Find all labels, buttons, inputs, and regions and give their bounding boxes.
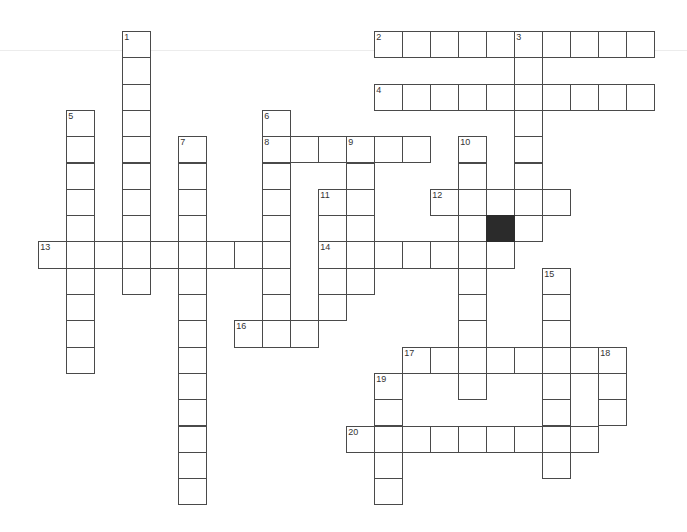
crossword-cell[interactable] (374, 241, 403, 268)
crossword-cell[interactable] (402, 426, 431, 453)
crossword-cell[interactable] (346, 241, 375, 268)
crossword-cell[interactable] (346, 268, 375, 295)
crossword-cell[interactable]: 14 (318, 241, 347, 268)
crossword-cell[interactable] (262, 163, 291, 190)
crossword-cell[interactable]: 15 (542, 268, 571, 295)
crossword-cell[interactable] (458, 426, 487, 453)
crossword-cell[interactable] (262, 294, 291, 321)
crossword-cell[interactable] (122, 241, 151, 268)
crossword-cell[interactable] (346, 189, 375, 216)
crossword-cell[interactable] (430, 84, 459, 111)
crossword-cell[interactable] (66, 294, 95, 321)
crossword-cell[interactable] (458, 84, 487, 111)
crossword-cell[interactable] (178, 215, 207, 242)
crossword-cell[interactable] (458, 31, 487, 58)
crossword-cell[interactable] (430, 426, 459, 453)
crossword-cell[interactable]: 18 (598, 347, 627, 374)
crossword-cell[interactable] (178, 478, 207, 505)
crossword-cell[interactable] (542, 31, 571, 58)
crossword-cell[interactable] (66, 136, 95, 163)
crossword-cell[interactable] (66, 241, 95, 268)
crossword-cell[interactable] (430, 31, 459, 58)
crossword-cell[interactable] (514, 57, 543, 84)
crossword-cell[interactable] (542, 189, 571, 216)
crossword-cell[interactable] (178, 399, 207, 426)
crossword-cell[interactable] (542, 84, 571, 111)
crossword-cell[interactable] (66, 163, 95, 190)
crossword-cell[interactable] (66, 215, 95, 242)
crossword-cell[interactable] (122, 189, 151, 216)
crossword-cell[interactable]: 9 (346, 136, 375, 163)
crossword-cell[interactable] (402, 136, 431, 163)
crossword-cell[interactable] (514, 136, 543, 163)
crossword-cell[interactable]: 11 (318, 189, 347, 216)
crossword-cell[interactable] (402, 31, 431, 58)
crossword-cell[interactable] (318, 136, 347, 163)
crossword-cell[interactable]: 6 (262, 110, 291, 137)
crossword-cell[interactable] (458, 373, 487, 400)
crossword-cell[interactable] (178, 241, 207, 268)
crossword-cell[interactable] (374, 426, 403, 453)
crossword-cell[interactable] (598, 31, 627, 58)
crossword-cell[interactable] (514, 426, 543, 453)
crossword-cell[interactable]: 16 (234, 320, 263, 347)
crossword-cell[interactable] (290, 320, 319, 347)
crossword-cell[interactable] (598, 84, 627, 111)
crossword-cell[interactable] (570, 31, 599, 58)
crossword-cell[interactable] (178, 268, 207, 295)
crossword-cell[interactable] (514, 189, 543, 216)
crossword-cell[interactable] (374, 478, 403, 505)
crossword-cell[interactable] (542, 373, 571, 400)
crossword-cell[interactable] (514, 347, 543, 374)
crossword-cell[interactable] (458, 294, 487, 321)
crossword-cell[interactable] (178, 163, 207, 190)
crossword-cell[interactable] (262, 241, 291, 268)
crossword-cell[interactable] (458, 347, 487, 374)
crossword-cell[interactable]: 20 (346, 426, 375, 453)
crossword-cell[interactable]: 3 (514, 31, 543, 58)
crossword-cell[interactable] (542, 320, 571, 347)
crossword-cell[interactable] (122, 84, 151, 111)
crossword-cell[interactable]: 12 (430, 189, 459, 216)
crossword-cell[interactable] (318, 268, 347, 295)
crossword-cell[interactable] (122, 268, 151, 295)
crossword-cell[interactable] (150, 241, 179, 268)
crossword-cell[interactable] (458, 320, 487, 347)
crossword-cell[interactable] (570, 347, 599, 374)
crossword-cell[interactable] (122, 57, 151, 84)
crossword-cell[interactable]: 7 (178, 136, 207, 163)
crossword-cell[interactable] (570, 426, 599, 453)
crossword-cell[interactable] (346, 215, 375, 242)
crossword-cell[interactable] (486, 241, 515, 268)
crossword-cell[interactable] (570, 84, 599, 111)
crossword-cell[interactable] (178, 452, 207, 479)
crossword-cell[interactable] (458, 215, 487, 242)
crossword-cell[interactable] (122, 163, 151, 190)
crossword-cell[interactable] (402, 241, 431, 268)
crossword-cell[interactable] (234, 241, 263, 268)
crossword-cell[interactable] (542, 347, 571, 374)
crossword-cell[interactable] (542, 452, 571, 479)
crossword-cell[interactable] (486, 31, 515, 58)
crossword-cell[interactable] (542, 426, 571, 453)
crossword-cell[interactable] (514, 84, 543, 111)
crossword-cell[interactable] (318, 294, 347, 321)
crossword-cell[interactable] (122, 136, 151, 163)
crossword-cell[interactable] (430, 347, 459, 374)
crossword-cell[interactable] (458, 189, 487, 216)
crossword-cell[interactable]: 2 (374, 31, 403, 58)
crossword-cell[interactable] (122, 215, 151, 242)
crossword-cell[interactable] (66, 320, 95, 347)
crossword-cell[interactable] (66, 347, 95, 374)
crossword-cell[interactable] (374, 136, 403, 163)
crossword-cell[interactable] (262, 320, 291, 347)
crossword-cell[interactable]: 4 (374, 84, 403, 111)
crossword-cell[interactable]: 1 (122, 31, 151, 58)
crossword-cell[interactable] (514, 163, 543, 190)
crossword-cell[interactable] (514, 215, 543, 242)
crossword-cell[interactable]: 19 (374, 373, 403, 400)
crossword-cell[interactable] (178, 294, 207, 321)
crossword-cell[interactable] (542, 294, 571, 321)
crossword-cell[interactable] (598, 373, 627, 400)
crossword-cell[interactable] (458, 241, 487, 268)
